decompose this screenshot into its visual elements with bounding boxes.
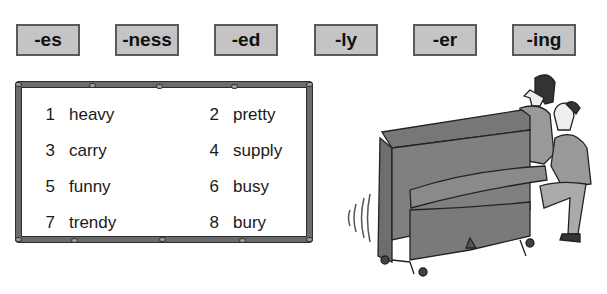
nail-icon (306, 237, 313, 242)
nail-icon (71, 238, 78, 243)
suffix-label: -er (433, 29, 457, 51)
word-item: 4supply (209, 141, 282, 161)
word-item: 7trendy (45, 213, 116, 233)
suffix-label: -ness (122, 29, 172, 51)
word-item: 6busy (209, 177, 269, 197)
word-item: 5funny (45, 177, 111, 197)
suffix-label: -ing (527, 29, 562, 51)
piano-movers-illustration (340, 60, 607, 294)
suffix-box-ed: -ed (214, 24, 278, 56)
suffix-label: -ed (232, 29, 261, 51)
word-item: 1heavy (45, 105, 114, 125)
nail-icon (15, 237, 22, 242)
word-item: 8bury (209, 213, 266, 233)
nail-icon (159, 237, 166, 242)
nail-icon (156, 84, 163, 89)
word-board: 1heavy 2pretty 3carry 4supply 5funny 6bu… (16, 82, 312, 242)
suffix-box-ness: -ness (115, 24, 179, 56)
nail-icon (89, 83, 96, 88)
suffix-box-ing: -ing (512, 24, 576, 56)
nail-icon (231, 84, 238, 89)
suffix-box-ly: -ly (314, 24, 378, 56)
word-item: 3carry (45, 141, 107, 161)
suffix-box-es: -es (16, 24, 80, 56)
word-item: 2pretty (209, 105, 276, 125)
suffix-label: -es (34, 29, 61, 51)
suffix-box-er: -er (413, 24, 477, 56)
nail-icon (239, 238, 246, 243)
suffix-label: -ly (335, 29, 357, 51)
nail-icon (306, 82, 313, 87)
nail-icon (15, 82, 22, 87)
